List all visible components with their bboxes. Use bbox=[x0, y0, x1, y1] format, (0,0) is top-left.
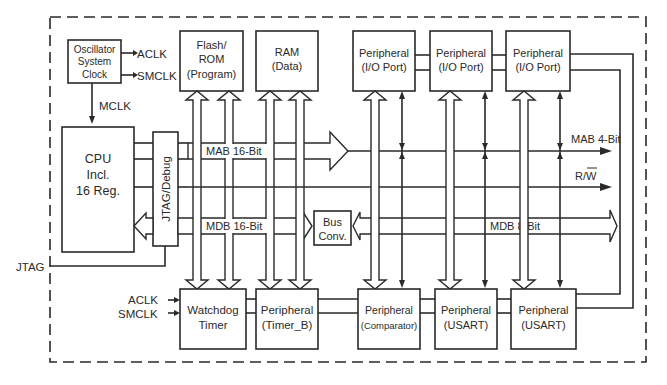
watchdog-timer-block: Watchdog Timer bbox=[180, 289, 246, 349]
ram-block: RAM (Data) bbox=[256, 31, 318, 91]
wd-aclk-label: ACLK bbox=[128, 294, 158, 306]
io-bus-arrows bbox=[364, 91, 535, 289]
arrow-icon bbox=[600, 147, 612, 155]
mclk-label: MCLK bbox=[99, 100, 131, 112]
ram-label-2: (Data) bbox=[272, 60, 303, 72]
cpu-label-2: Incl. bbox=[87, 168, 110, 182]
usart-1-block: Peripheral (USART) bbox=[435, 289, 497, 349]
io-port-1-block: Peripheral (I/O Port) bbox=[353, 31, 415, 91]
jtag-debug-label: JTAG/Debug bbox=[160, 156, 172, 222]
io2-label-1: Peripheral bbox=[436, 47, 486, 59]
io3-label-1: Peripheral bbox=[513, 47, 563, 59]
cpu-label-3: 16 Reg. bbox=[76, 184, 120, 198]
io3-label-2: (I/O Port) bbox=[515, 61, 560, 73]
jtag-debug-block: JTAG/Debug bbox=[153, 132, 178, 246]
usart1-label-1: Peripheral bbox=[441, 304, 491, 316]
timer-b-label-1: Peripheral bbox=[261, 304, 313, 316]
flash-label-2: ROM bbox=[199, 53, 225, 65]
flash-label-1: Flash/ bbox=[197, 39, 228, 51]
flash-rom-block: Flash/ ROM (Program) bbox=[180, 31, 243, 91]
oscillator-label-3: Clock bbox=[82, 69, 108, 80]
usart2-label-2: (USART) bbox=[521, 319, 565, 331]
block-diagram: Oscillator System Clock ACLK SMCLK MCLK … bbox=[0, 0, 667, 385]
arrow-icon bbox=[600, 183, 612, 191]
flash-bus-arrows bbox=[186, 91, 311, 289]
timer-b-block: Peripheral (Timer_B) bbox=[256, 289, 318, 349]
comparator-block: Peripheral (Comparator) bbox=[358, 289, 420, 349]
oscillator-label-2: System bbox=[78, 56, 111, 67]
usart2-label-1: Peripheral bbox=[518, 304, 568, 316]
timer-b-label-2: (Timer_B) bbox=[262, 319, 313, 331]
io1-label-1: Peripheral bbox=[359, 47, 409, 59]
cpu-label-1: CPU bbox=[85, 152, 111, 166]
rw-label: R/W bbox=[575, 170, 597, 182]
smclk-label: SMCLK bbox=[137, 70, 177, 82]
mdb16-label: MDB 16-Bit bbox=[206, 220, 262, 232]
mab16-label: MAB 16-Bit bbox=[206, 145, 262, 157]
io-control-arrows bbox=[399, 91, 563, 288]
bus-conv-label-1: Bus bbox=[323, 216, 342, 228]
io2-label-2: (I/O Port) bbox=[438, 61, 483, 73]
bus-converter-block: Bus Conv. bbox=[314, 211, 351, 245]
cpu-block: CPU Incl. 16 Reg. bbox=[62, 127, 134, 252]
flash-label-3: (Program) bbox=[187, 68, 237, 80]
mdb8-label: MDB 8-Bit bbox=[490, 220, 540, 232]
watchdog-label-1: Watchdog bbox=[187, 304, 238, 316]
oscillator-block: Oscillator System Clock bbox=[68, 40, 121, 83]
usart1-label-2: (USART) bbox=[444, 319, 488, 331]
io-port-2-block: Peripheral (I/O Port) bbox=[430, 31, 492, 91]
usart-2-block: Peripheral (USART) bbox=[511, 289, 576, 349]
wd-smclk-label: SMCLK bbox=[118, 308, 158, 320]
ram-label-1: RAM bbox=[275, 46, 299, 58]
jtag-to-cpu-arrow-icon bbox=[134, 213, 153, 239]
io-port-3-block: Peripheral (I/O Port) bbox=[506, 31, 570, 91]
io1-label-2: (I/O Port) bbox=[361, 61, 406, 73]
mab4-label: MAB 4-Bit bbox=[571, 133, 621, 145]
aclk-label: ACLK bbox=[137, 48, 167, 60]
watchdog-label-2: Timer bbox=[199, 319, 228, 331]
oscillator-label-1: Oscillator bbox=[74, 44, 116, 55]
comparator-label-1: Peripheral bbox=[365, 304, 413, 316]
bus-conv-label-2: Conv. bbox=[319, 230, 347, 242]
comparator-label-2: (Comparator) bbox=[361, 320, 418, 331]
arrow-down-icon bbox=[89, 116, 95, 124]
jtag-pin-label: JTAG bbox=[16, 261, 45, 273]
